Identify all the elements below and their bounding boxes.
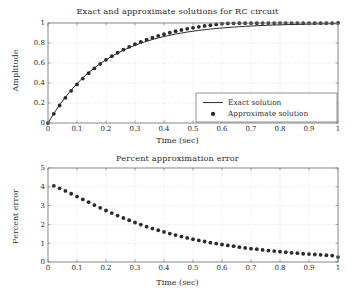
x-tick-label: 1 — [336, 125, 340, 133]
series-marker — [64, 96, 68, 100]
x-tick-label: 0.3 — [129, 264, 140, 272]
series-marker — [191, 26, 195, 30]
x-tick-label: 1 — [336, 264, 340, 272]
x-tick-label: 0.4 — [158, 264, 170, 272]
series-marker — [197, 25, 201, 29]
chart-title-bottom: Percent approximation error — [0, 153, 355, 163]
x-tick-label: 0.4 — [158, 125, 170, 133]
series-marker — [162, 32, 166, 36]
x-axis-label-top: Time (sec) — [0, 136, 355, 145]
series-marker — [133, 42, 137, 46]
series-marker — [75, 83, 79, 87]
x-tick-label: 0.2 — [100, 264, 111, 272]
series-marker — [330, 254, 334, 258]
series-marker — [116, 51, 120, 55]
series-marker — [284, 250, 288, 254]
series-marker — [220, 243, 224, 247]
y-tick-label: 0 — [41, 119, 45, 127]
y-tick-label: 0.6 — [34, 59, 46, 67]
series-marker — [313, 253, 317, 257]
series-marker — [81, 198, 85, 202]
chart-title-top: Exact and approximate solutions for RC c… — [0, 6, 355, 16]
series-marker — [197, 238, 201, 242]
series-marker — [145, 225, 149, 229]
series-marker — [139, 40, 143, 44]
series-marker — [81, 77, 85, 81]
series-marker — [232, 244, 236, 248]
series-marker — [261, 248, 265, 252]
x-tick-label: 0.9 — [303, 125, 314, 133]
series-marker — [64, 189, 68, 193]
chart-panel-percent-error: Percent approximation error Percent erro… — [0, 150, 355, 301]
y-tick-label: 1 — [41, 19, 45, 27]
gridlines — [48, 168, 338, 262]
series-marker — [307, 252, 311, 256]
series-marker — [58, 104, 62, 108]
series-marker — [122, 216, 126, 220]
x-tick-label: 0.5 — [187, 125, 198, 133]
series-marker — [325, 253, 329, 257]
series-marker — [290, 251, 294, 255]
x-tick-label: 0.2 — [100, 125, 111, 133]
series-marker — [93, 67, 97, 71]
series-marker — [58, 186, 62, 190]
series-marker — [52, 184, 56, 188]
series-marker — [214, 242, 218, 246]
series-marker — [151, 227, 155, 231]
plot-area-top: 00.10.20.30.40.50.60.70.80.9100.20.40.60… — [0, 0, 355, 150]
series-marker — [104, 209, 108, 213]
y-tick-label: 0.8 — [34, 39, 45, 47]
series-marker — [296, 251, 300, 255]
series-marker — [272, 249, 276, 253]
series-marker — [151, 36, 155, 40]
y-tick-label: 0.4 — [34, 79, 46, 87]
y-tick-label: 0.2 — [34, 99, 45, 107]
x-tick-label: 0.8 — [274, 264, 285, 272]
series-marker — [133, 221, 137, 225]
series-marker — [209, 241, 213, 245]
series-marker — [69, 192, 73, 196]
y-tick-label: 0 — [41, 258, 45, 266]
series-marker — [174, 233, 178, 237]
series-marker — [139, 223, 143, 227]
series-marker — [209, 23, 213, 27]
series-marker — [319, 253, 323, 257]
series-marker — [180, 28, 184, 32]
legend[interactable]: Exact solutionApproximate solution — [196, 93, 337, 122]
series-marker — [98, 62, 102, 66]
series-marker — [226, 244, 230, 248]
x-tick-label: 0.6 — [216, 125, 228, 133]
series-marker — [180, 235, 184, 239]
x-tick-label: 0 — [46, 125, 50, 133]
y-axis-label-bottom: Percent error — [11, 185, 20, 249]
series-marker — [191, 237, 195, 241]
series-marker — [162, 230, 166, 234]
y-axis-label-top: Amplitude — [11, 41, 20, 101]
series-marker — [168, 31, 172, 35]
chart-panel-exact-approx: Exact and approximate solutions for RC c… — [0, 0, 355, 150]
series-marker — [75, 195, 79, 199]
series-marker — [238, 245, 242, 249]
axis-frame — [48, 168, 338, 262]
series-marker — [122, 48, 126, 52]
x-tick-label: 0 — [46, 264, 50, 272]
series-marker — [110, 211, 114, 215]
x-tick-label: 0.8 — [274, 125, 285, 133]
x-tick-label: 0.7 — [245, 264, 256, 272]
series-marker — [168, 232, 172, 236]
legend-label: Exact solution — [228, 98, 282, 107]
series-marker — [87, 200, 91, 204]
series-marker — [185, 236, 189, 240]
series-marker — [267, 249, 271, 253]
series-marker — [249, 247, 253, 251]
series-marker — [69, 89, 73, 93]
x-tick-label: 0.7 — [245, 125, 256, 133]
series-marker — [156, 228, 160, 232]
series-marker — [116, 214, 120, 218]
series-marker — [278, 250, 282, 254]
x-tick-label: 0.9 — [303, 264, 314, 272]
series-marker — [110, 54, 114, 58]
series-marker — [301, 252, 305, 256]
x-tick-label: 0.1 — [71, 264, 82, 272]
y-tick-label: 2 — [41, 221, 45, 229]
